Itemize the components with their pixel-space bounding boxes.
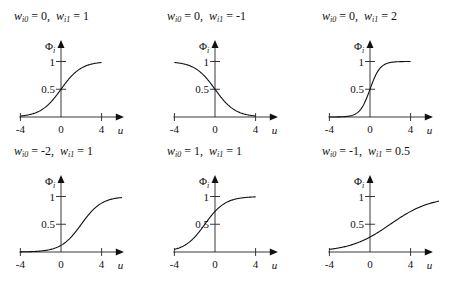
- x-axis-label: u: [272, 259, 278, 271]
- x-tick-label: -4: [170, 123, 180, 135]
- y-axis-label: Φi: [199, 175, 209, 190]
- x-axis-arrow-icon: [270, 114, 278, 121]
- x-tick-label: 4: [99, 123, 105, 135]
- y-tick-label: 0.5: [350, 218, 364, 230]
- y-tick-label: 0.5: [195, 83, 209, 95]
- sigmoid-panel-6: wi0 = -1, wi1 = 0.5 -4040.51uΦi: [309, 135, 451, 275]
- y-tick-label: 0.5: [41, 218, 55, 230]
- y-tick-label: 1: [204, 56, 210, 68]
- x-axis-arrow-icon: [425, 114, 433, 121]
- sigmoid-panel-5: wi0 = 1, wi1 = 1 -4040.51uΦi: [154, 135, 304, 275]
- x-axis-arrow-icon: [116, 249, 124, 256]
- axes: [173, 180, 271, 252]
- y-axis-arrow-icon: [367, 175, 374, 183]
- axes: [173, 45, 271, 117]
- x-tick-label: -4: [16, 258, 26, 270]
- y-axis-arrow-icon: [58, 40, 65, 48]
- y-axis-arrow-icon: [212, 40, 219, 48]
- y-axis-label: Φi: [354, 40, 364, 55]
- y-tick-label: 1: [359, 191, 365, 203]
- plot-area: -4040.51uΦi: [0, 0, 150, 140]
- x-axis-arrow-icon: [425, 249, 433, 256]
- axes: [328, 45, 426, 117]
- x-tick-label: 4: [253, 123, 259, 135]
- x-tick-label: 4: [408, 123, 414, 135]
- plot-area: -4040.51uΦi: [309, 135, 451, 275]
- y-tick-label: 1: [50, 56, 56, 68]
- y-axis-label: Φi: [45, 40, 55, 55]
- x-tick-label: -4: [325, 258, 335, 270]
- plot-area: -4040.51uΦi: [154, 135, 304, 275]
- plot-area: -4040.51uΦi: [0, 135, 150, 275]
- plot-area: -4040.51uΦi: [309, 0, 451, 140]
- sigmoid-curve: [329, 201, 439, 249]
- x-tick-label: 4: [99, 258, 105, 270]
- x-tick-label: 0: [367, 123, 373, 135]
- y-axis-label: Φi: [354, 175, 364, 190]
- sigmoid-panel-3: wi0 = 0, wi1 = 2 -4040.51uΦi: [309, 0, 451, 140]
- x-tick-label: 4: [253, 258, 259, 270]
- x-tick-label: 0: [367, 258, 373, 270]
- sigmoid-panel-4: wi0 = -2, wi1 = 1 -4040.51uΦi: [0, 135, 150, 275]
- x-tick-label: 0: [212, 123, 218, 135]
- y-tick-label: 1: [204, 191, 210, 203]
- y-tick-label: 1: [359, 56, 365, 68]
- x-tick-label: -4: [170, 258, 180, 270]
- y-axis-label: Φi: [199, 40, 209, 55]
- x-axis-arrow-icon: [116, 114, 124, 121]
- y-axis-arrow-icon: [212, 175, 219, 183]
- y-axis-arrow-icon: [367, 40, 374, 48]
- sigmoid-panel-2: wi0 = 0, wi1 = -1 -4040.51uΦi: [154, 0, 304, 140]
- x-tick-label: 0: [212, 258, 218, 270]
- y-axis-label: Φi: [45, 175, 55, 190]
- sigmoid-panel-1: wi0 = 0, wi1 = 1 -4040.51uΦi: [0, 0, 150, 140]
- plot-area: -4040.51uΦi: [154, 0, 304, 140]
- x-axis-arrow-icon: [270, 249, 278, 256]
- y-tick-label: 1: [50, 191, 56, 203]
- x-tick-label: 0: [58, 123, 64, 135]
- axes: [19, 180, 117, 252]
- axes: [328, 180, 426, 252]
- x-tick-label: 0: [58, 258, 64, 270]
- axes: [19, 45, 117, 117]
- sigmoid-curve: [20, 198, 122, 252]
- x-tick-label: 4: [408, 258, 414, 270]
- x-tick-label: -4: [325, 123, 335, 135]
- y-axis-arrow-icon: [58, 175, 65, 183]
- y-tick-label: 0.5: [350, 83, 364, 95]
- x-tick-label: -4: [16, 123, 26, 135]
- x-axis-label: u: [427, 259, 433, 271]
- x-axis-label: u: [118, 259, 124, 271]
- y-tick-label: 0.5: [41, 83, 55, 95]
